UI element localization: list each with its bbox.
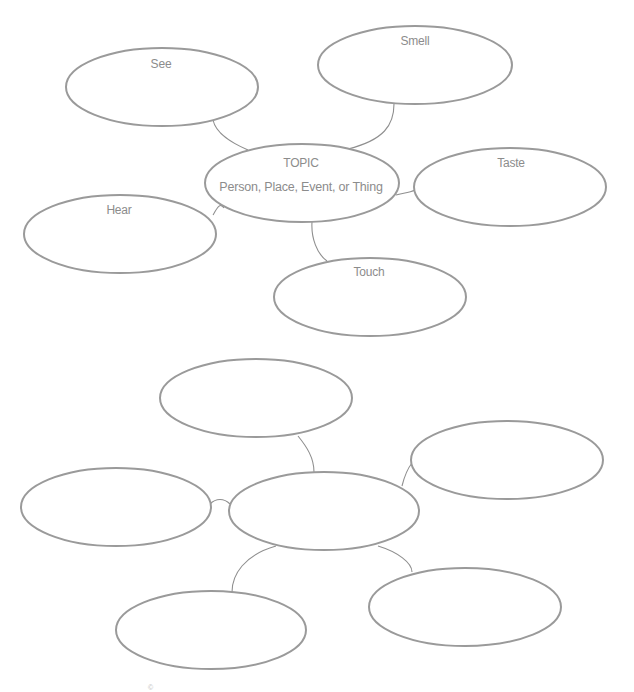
diagram-2: [21, 359, 603, 669]
blank-bubble-center: [229, 472, 419, 550]
label-touch: Touch: [353, 265, 384, 279]
label-smell: Smell: [400, 34, 429, 48]
connector-center-lowerright: [378, 546, 412, 572]
label-see: See: [151, 57, 172, 71]
connector-topic-touch: [312, 222, 327, 261]
label-hear: Hear: [106, 203, 131, 217]
graphic-organizer-canvas: [0, 0, 634, 692]
connector-smell-topic: [348, 104, 394, 149]
blank-bubble-lower-right: [369, 568, 561, 646]
connector-topic-taste: [396, 190, 415, 195]
connector-center-right: [402, 463, 412, 486]
label-topic-subtitle: Person, Place, Event, or Thing: [219, 180, 382, 194]
connector-hear-topic: [213, 206, 224, 215]
connector-see-topic: [213, 120, 248, 150]
copyright-footer: ©: [148, 684, 153, 691]
blank-bubble-right: [411, 421, 603, 499]
label-taste: Taste: [497, 156, 525, 170]
blank-bubble-lower-left: [116, 591, 306, 669]
label-topic-title: TOPIC: [283, 156, 318, 170]
blank-bubble-top: [160, 359, 352, 437]
connector-left-center: [210, 500, 230, 505]
blank-bubble-left: [21, 468, 211, 546]
connector-center-lowerleft: [232, 546, 276, 592]
connector-top-center: [298, 436, 314, 472]
